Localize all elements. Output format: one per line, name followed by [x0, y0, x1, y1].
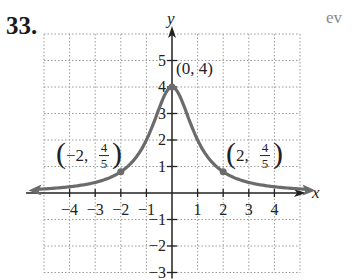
y-axis-label: y — [165, 9, 175, 28]
x-tick-label: 1 — [194, 201, 202, 218]
fraction-numerator: 4 — [101, 140, 108, 155]
close-paren: ) — [112, 136, 122, 170]
x-tick-label: 2 — [219, 201, 227, 218]
open-paren: ( — [56, 136, 66, 170]
point-label-left: (−2,45) — [56, 136, 122, 171]
x-axis-label: x — [311, 183, 320, 202]
x-tick-label: 3 — [245, 201, 253, 218]
function-graph: xy−4−3−2−11234−3−2−112345(0, 4)(−2,45)(2… — [0, 0, 358, 280]
y-tick-label: −2 — [149, 237, 166, 254]
y-tick-label: −3 — [149, 264, 166, 280]
point-label-vertex: (0, 4) — [176, 59, 213, 78]
x-tick-label: −4 — [61, 201, 78, 218]
y-tick-label: −1 — [149, 211, 166, 228]
y-tick-label: 2 — [158, 131, 166, 148]
close-paren: ) — [273, 136, 283, 170]
data-point — [117, 168, 124, 175]
data-point — [169, 84, 176, 91]
fraction-numerator: 4 — [262, 140, 269, 155]
data-point — [220, 168, 227, 175]
fraction-denominator: 5 — [101, 156, 108, 171]
x-tick-label: −3 — [87, 201, 104, 218]
y-tick-label: 1 — [158, 158, 166, 175]
point-label-coord: 2, — [236, 146, 249, 165]
point-label-coord: −2, — [66, 146, 88, 165]
x-tick-label: 4 — [270, 201, 278, 218]
y-tick-label: 5 — [158, 52, 166, 69]
point-label-right: (2,45) — [226, 136, 283, 171]
open-paren: ( — [226, 136, 236, 170]
x-tick-label: −2 — [112, 201, 129, 218]
fraction-denominator: 5 — [262, 156, 269, 171]
